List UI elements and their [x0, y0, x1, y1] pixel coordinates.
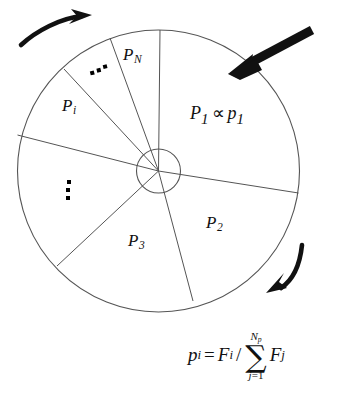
wheel-svg: [0, 0, 343, 404]
probability-formula: pi = Fi / Np ∑ j=1 Fj: [188, 330, 285, 380]
sector-label-pi: Pi: [62, 97, 76, 117]
rotation-arrow-top-left: [21, 9, 92, 45]
sector-label-p3-sub: 3: [138, 239, 144, 252]
formula-summation: Np ∑ j=1: [245, 331, 266, 381]
sector-label-p2: P2: [206, 214, 223, 234]
sector-label-pi-base: P: [62, 96, 72, 115]
sector-label-pn: PN: [123, 46, 142, 66]
formula-sum-lower-limit: j=1: [249, 370, 264, 381]
formula-equals: =: [201, 344, 218, 366]
summation-icon: ∑: [245, 343, 266, 371]
ellipsis-dot: [96, 67, 101, 72]
proportional-to-icon: ∝: [209, 103, 228, 123]
formula-sum-lower-val: 1: [258, 369, 264, 381]
proportionality-left-sub: 1: [201, 111, 209, 127]
sector-label-p3: P3: [128, 232, 145, 252]
selection-pointer-arrow: [228, 30, 312, 80]
formula-lhs-base: p: [188, 344, 198, 366]
ellipsis-dot: [67, 180, 71, 184]
sector-label-pi-sub: i: [72, 104, 76, 117]
ellipsis-dot: [66, 188, 70, 192]
proportionality-label: P1∝p1: [190, 104, 244, 127]
proportionality-right-sub: 1: [237, 111, 245, 127]
sector-label-p2-base: P: [206, 213, 216, 232]
sector-label-pn-sub: N: [133, 53, 141, 66]
formula-term-base: F: [268, 344, 282, 366]
ellipsis-left-dots: [66, 180, 74, 202]
formula-slash: /: [233, 344, 244, 366]
ellipsis-dot: [66, 196, 70, 200]
selection-arrow-shaft: [248, 30, 312, 64]
proportionality-right-base: p: [228, 103, 237, 123]
sector-label-p3-base: P: [128, 231, 138, 250]
sector-label-pn-base: P: [123, 45, 133, 64]
proportionality-left-base: P: [190, 103, 201, 123]
formula-term-sub: j: [281, 347, 285, 363]
figure-canvas: Pi PN P3 P2 P1∝p1 pi = Fi / Np ∑ j=1 Fj: [0, 0, 343, 404]
ellipsis-dot: [90, 71, 95, 76]
formula-numerator-base: F: [218, 344, 230, 366]
sector-label-p2-sub: 2: [216, 221, 222, 234]
ellipsis-dot: [103, 64, 108, 69]
rotation-arrow-bottom-right-shaft: [281, 245, 302, 288]
